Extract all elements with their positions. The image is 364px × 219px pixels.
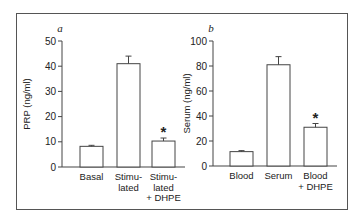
y-tick-label: 60 <box>196 86 208 97</box>
y-tick-label: 50 <box>45 36 57 47</box>
y-axis-label: PRP (ng/ml) <box>21 78 32 130</box>
category-label: Basal <box>80 171 104 182</box>
bar <box>117 64 140 167</box>
significance-asterisk: * <box>161 123 167 140</box>
category-label: lated <box>118 182 139 193</box>
category-label: Serum <box>265 170 293 181</box>
panel-label-b: b <box>208 22 214 34</box>
category-label: Stimu- <box>115 171 142 182</box>
category-label: + DHPE <box>146 192 181 203</box>
y-tick-label: 20 <box>196 136 208 147</box>
y-tick-label: 30 <box>45 86 57 97</box>
category-label: lated <box>153 182 174 193</box>
y-tick-label: 40 <box>45 61 57 72</box>
category-label: Blood <box>303 170 327 181</box>
bar <box>230 152 253 166</box>
y-tick-label: 80 <box>196 61 208 72</box>
y-tick-label: 10 <box>45 136 57 147</box>
category-label: Blood <box>229 170 253 181</box>
bar-chart-figure: a01020304050PRP (ng/ml)BasalStimu-lated*… <box>0 0 364 219</box>
bar <box>267 65 290 166</box>
significance-asterisk: * <box>313 109 319 126</box>
y-tick-label: 0 <box>50 162 56 173</box>
category-label: Stimu- <box>150 171 177 182</box>
bar <box>80 146 103 167</box>
y-tick-label: 20 <box>45 111 57 122</box>
bar <box>152 141 175 167</box>
bar <box>304 127 327 166</box>
y-tick-label: 0 <box>201 161 207 172</box>
y-tick-label: 100 <box>190 36 207 47</box>
panel-label-a: a <box>57 22 63 34</box>
y-axis-label: Serum (ng/ml) <box>181 73 192 133</box>
category-label: + DHPE <box>298 181 333 192</box>
y-tick-label: 40 <box>196 111 208 122</box>
